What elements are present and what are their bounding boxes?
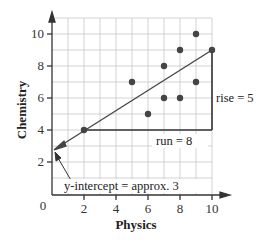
x-axis-title: Physics xyxy=(115,217,156,232)
intercept-pointer xyxy=(55,152,72,182)
intercept-label: y-intercept = approx. 3 xyxy=(64,179,179,193)
x-tick-labels: 2 4 6 8 10 xyxy=(81,201,219,216)
point-6-5 xyxy=(145,111,151,117)
y-axis-title: Chemistry xyxy=(14,80,29,139)
x-tick-4: 4 xyxy=(113,201,120,216)
y-tick-2: 2 xyxy=(38,154,45,169)
x-tick-2: 2 xyxy=(81,201,88,216)
point-8-9 xyxy=(177,47,183,53)
point-9-10 xyxy=(193,31,199,37)
axes xyxy=(47,12,230,200)
point-7-8 xyxy=(161,63,167,69)
point-10-9 xyxy=(209,47,215,53)
y-tick-labels: 10 8 6 4 2 xyxy=(31,26,45,169)
x-tick-10: 10 xyxy=(206,201,219,216)
grid xyxy=(52,18,212,195)
origin-label: 0 xyxy=(40,198,47,213)
y-tick-10: 10 xyxy=(31,26,44,41)
point-7-6 xyxy=(161,95,167,101)
scatter-chart: 10 8 6 4 2 0 2 4 6 8 10 Physics Chemistr… xyxy=(0,0,261,247)
point-2-4 xyxy=(81,127,87,133)
point-9-7 xyxy=(193,79,199,85)
rise-label: rise = 5 xyxy=(216,91,254,105)
x-tick-6: 6 xyxy=(145,201,152,216)
x-tick-8: 8 xyxy=(177,201,184,216)
y-tick-6: 6 xyxy=(38,90,45,105)
y-tick-8: 8 xyxy=(38,58,45,73)
run-label: run = 8 xyxy=(156,134,192,148)
point-8-6 xyxy=(177,95,183,101)
point-5-7 xyxy=(129,79,135,85)
y-tick-4: 4 xyxy=(38,122,45,137)
